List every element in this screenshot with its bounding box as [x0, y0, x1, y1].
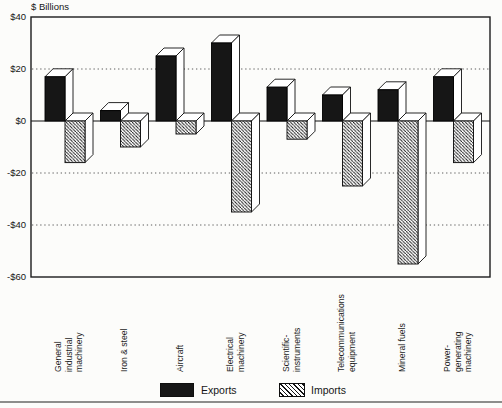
export-bar: [45, 77, 65, 121]
import-bar: [176, 121, 196, 134]
y-tick-label: $40: [10, 11, 26, 22]
export-bar-side-face: [176, 48, 184, 121]
import-bar-side-face: [85, 113, 93, 163]
export-bar: [434, 77, 454, 121]
export-bar: [101, 111, 121, 121]
export-bar: [156, 56, 176, 121]
bottom-page-rule: [0, 401, 502, 403]
import-bar-side-face: [474, 113, 482, 163]
export-bar: [212, 43, 232, 121]
import-bar: [121, 121, 141, 147]
import-bar-side-face: [363, 113, 371, 186]
scanned-trade-chart-page: $ Billions $40$20$0-$20-$40-$60 General …: [0, 0, 502, 408]
exports-legend-label: Exports: [201, 383, 237, 397]
imports-legend-swatch: [279, 383, 305, 397]
y-tick-label: $0: [15, 115, 26, 126]
y-tick-label: $20: [10, 63, 26, 74]
import-bar: [454, 121, 474, 163]
imports-legend-label: Imports: [311, 383, 346, 397]
exports-imports-bar-chart: $40$20$0-$20-$40-$60: [0, 0, 502, 408]
y-tick-label: -$20: [7, 167, 26, 178]
import-bar: [343, 121, 363, 186]
y-tick-label: -$60: [7, 271, 26, 282]
import-bar: [287, 121, 307, 139]
import-bar: [65, 121, 85, 163]
exports-legend-swatch: [160, 383, 194, 397]
import-bar-side-face: [252, 113, 260, 212]
import-bar-side-face: [418, 113, 426, 264]
export-bar-side-face: [65, 69, 73, 121]
import-bar: [232, 121, 252, 212]
export-bar: [378, 90, 398, 121]
export-bar-side-face: [232, 35, 240, 121]
import-bar: [398, 121, 418, 264]
export-bar-side-face: [454, 69, 462, 121]
export-bar: [323, 95, 343, 121]
y-tick-label: -$40: [7, 219, 26, 230]
export-bar: [267, 87, 287, 121]
